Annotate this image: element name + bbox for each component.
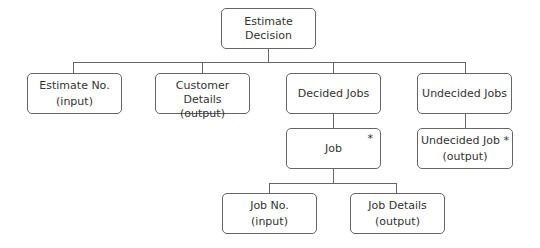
- node-label: Job: [325, 142, 342, 156]
- node-label: Undecided Jobs: [422, 87, 507, 101]
- node-decided-jobs: Decided Jobs: [286, 73, 381, 114]
- connector-job-details: [396, 183, 397, 193]
- node-label: Undecided Job *: [421, 134, 509, 148]
- node-undecided-job: Undecided Job * (output): [417, 128, 513, 169]
- node-annotation: (output): [443, 150, 488, 164]
- node-label: Customer Details: [156, 79, 249, 107]
- connector-root-down: [268, 48, 269, 62]
- connector-undecided-jobs: [465, 62, 466, 73]
- node-annotation: (output): [375, 215, 420, 229]
- connector-decided-to-job: [333, 114, 334, 128]
- node-annotation: (input): [251, 215, 288, 229]
- node-customer-details: Customer Details (output): [155, 73, 250, 114]
- iteration-marker: *: [368, 132, 374, 146]
- node-label: Estimate: [244, 15, 293, 29]
- connector-estimate-no: [73, 62, 74, 73]
- node-annotation: (output): [180, 107, 225, 121]
- connector-level3-bar: [269, 183, 397, 184]
- node-label: Job No.: [250, 199, 289, 213]
- node-job-details: Job Details (output): [350, 193, 445, 234]
- connector-level1-bar: [73, 62, 466, 63]
- node-label: Decided Jobs: [298, 87, 369, 101]
- connector-decided-jobs: [333, 62, 334, 73]
- connector-customer-details: [202, 62, 203, 73]
- connector-job-down: [333, 168, 334, 183]
- connector-undecided-to-job: [465, 114, 466, 128]
- node-label: Estimate No.: [39, 79, 109, 93]
- node-estimate-decision: Estimate Decision: [221, 8, 316, 49]
- node-estimate-no: Estimate No. (input): [27, 73, 122, 114]
- node-job-no: Job No. (input): [222, 193, 317, 234]
- node-undecided-jobs: Undecided Jobs: [417, 73, 512, 114]
- node-label: Job Details: [368, 199, 427, 213]
- node-annotation: (input): [56, 95, 93, 109]
- connector-job-no: [269, 183, 270, 193]
- node-job: Job *: [286, 128, 381, 169]
- node-label: Decision: [245, 29, 292, 43]
